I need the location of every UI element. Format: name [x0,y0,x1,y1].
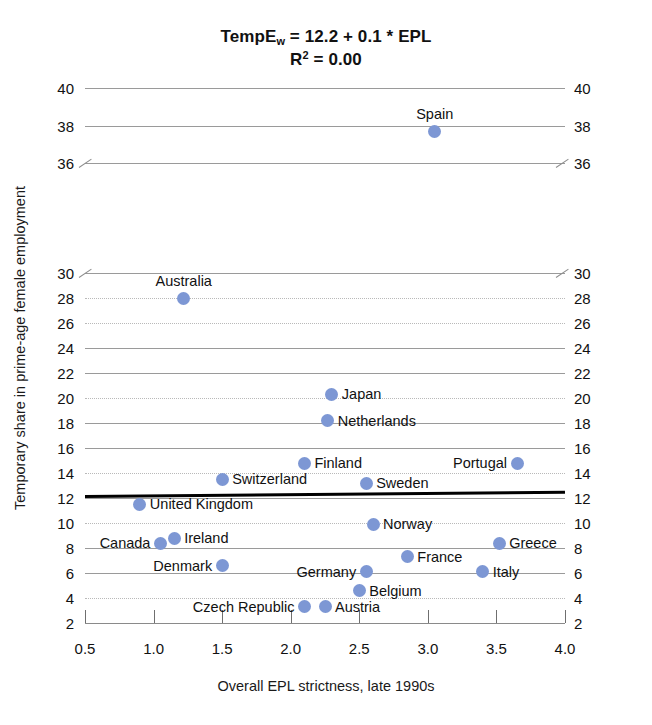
data-point-label: Finland [314,456,362,471]
data-point-label: United Kingdom [150,497,253,512]
gridline-22 [85,373,565,374]
data-point[interactable] [428,125,441,138]
gridline-4 [85,598,565,599]
y-tick-label-left-10: 10 [28,516,74,531]
y-tick-label-left-38: 38 [28,118,74,133]
chart-subtitle: R2 = 0.00 [0,49,652,72]
data-point[interactable] [401,550,414,563]
data-point[interactable] [298,457,311,470]
y-tick-label-left-16: 16 [28,441,74,456]
x-axis-line [85,623,565,624]
data-point-label: Portugal [453,456,507,471]
y-tick-label-left-2: 2 [28,616,74,631]
y-tick-label-left-28: 28 [28,291,74,306]
y-tick-label-left-14: 14 [28,466,74,481]
data-point[interactable] [298,600,311,613]
y-tick-label-right-8: 8 [574,541,620,556]
data-point-label: Germany [297,565,357,580]
y-tick-label-right-16: 16 [574,441,620,456]
y-tick-label-right-22: 22 [574,366,620,381]
data-point[interactable] [476,565,489,578]
data-point[interactable] [321,414,334,427]
data-point[interactable] [493,537,506,550]
data-point[interactable] [168,532,181,545]
x-tick-label-3.0: 3.0 [417,640,438,657]
data-point[interactable] [133,498,146,511]
chart-subtitle-main: R [290,50,302,69]
chart-title-main: TempE [220,27,276,46]
x-tick-label-0.5: 0.5 [75,640,96,657]
gridline-24 [85,348,565,349]
y-tick-label-left-8: 8 [28,541,74,556]
x-tick-label-1.0: 1.0 [143,640,164,657]
data-point-label: Switzerland [232,472,307,487]
x-axis-title: Overall EPL strictness, late 1990s [0,678,652,694]
data-point[interactable] [353,584,366,597]
y-tick-label-right-6: 6 [574,566,620,581]
gridline-14 [85,473,565,474]
y-tick-label-right-28: 28 [574,291,620,306]
data-point-label: Australia [156,274,212,289]
x-tick-mark-3.5 [496,610,497,623]
y-tick-label-left-12: 12 [28,491,74,506]
gridline-38 [85,126,565,127]
data-point[interactable] [319,600,332,613]
x-tick-label-2.5: 2.5 [349,640,370,657]
data-point[interactable] [511,457,524,470]
gridline-28 [85,298,565,299]
y-tick-label-right-4: 4 [574,591,620,606]
data-point-label: Czech Republic [193,600,295,615]
data-point-label: Greece [509,536,557,551]
y-tick-label-right-26: 26 [574,316,620,331]
x-tick-mark-4.0 [565,610,566,623]
y-tick-label-right-38: 38 [574,118,620,133]
data-point-label: Italy [493,565,520,580]
y-tick-label-left-36: 36 [28,156,74,171]
data-point-label: Norway [383,517,432,532]
y-tick-label-left-22: 22 [28,366,74,381]
chart-title-block: TempEw = 12.2 + 0.1 * EPL R2 = 0.00 [0,26,652,72]
data-point[interactable] [177,292,190,305]
gridline-40 [85,88,565,89]
gridline-16 [85,448,565,449]
data-point[interactable] [367,518,380,531]
chart-subtitle-superscript: 2 [303,49,309,61]
y-tick-label-right-10: 10 [574,516,620,531]
y-tick-label-left-18: 18 [28,416,74,431]
data-point[interactable] [154,537,167,550]
x-tick-mark-0.5 [85,610,86,623]
gridline-20 [85,398,565,399]
data-point-label: France [417,550,462,565]
data-point[interactable] [360,477,373,490]
y-tick-label-left-24: 24 [28,341,74,356]
y-tick-label-left-30: 30 [28,266,74,281]
data-point-label: Canada [100,536,151,551]
data-point-label: Netherlands [338,413,416,428]
y-tick-label-right-18: 18 [574,416,620,431]
y-tick-label-left-40: 40 [28,81,74,96]
gridline-26 [85,323,565,324]
y-tick-label-right-14: 14 [574,466,620,481]
chart-title-subscript: w [276,35,285,47]
x-tick-mark-1.0 [154,610,155,623]
x-tick-mark-3.0 [428,610,429,623]
x-tick-label-2.0: 2.0 [280,640,301,657]
data-point-label: Ireland [184,531,228,546]
y-tick-label-right-40: 40 [574,81,620,96]
y-tick-label-right-2: 2 [574,616,620,631]
data-point-label: Austria [335,600,380,615]
data-point[interactable] [216,559,229,572]
x-tick-label-3.5: 3.5 [486,640,507,657]
x-tick-label-1.5: 1.5 [212,640,233,657]
plot-area: SpainAustraliaJapanNetherlandsFinlandPor… [85,88,565,623]
y-tick-label-left-4: 4 [28,591,74,606]
data-point-label: Spain [416,107,453,122]
data-point[interactable] [360,565,373,578]
y-tick-label-left-26: 26 [28,316,74,331]
data-point[interactable] [216,473,229,486]
chart-subtitle-rest: = 0.00 [309,50,362,69]
gridline-36 [85,163,565,164]
data-point-label: Sweden [376,476,428,491]
y-tick-label-right-20: 20 [574,391,620,406]
y-tick-label-left-20: 20 [28,391,74,406]
